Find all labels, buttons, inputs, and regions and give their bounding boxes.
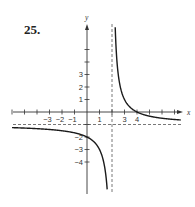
x-tick-label: −2 (56, 115, 65, 124)
y-tick-label: 2 (79, 83, 83, 92)
graph: xy−3−2−1134321−2−3−4 (0, 0, 195, 207)
y-axis-arrow (85, 24, 89, 30)
x-tick-label: 1 (97, 115, 101, 124)
x-tick-label: 3 (122, 115, 126, 124)
x-tick-label: 4 (135, 115, 139, 124)
y-tick-label: −3 (74, 145, 83, 154)
y-axis-label: y (84, 13, 89, 22)
x-tick-label: −1 (68, 115, 77, 124)
left-branch (12, 128, 107, 190)
x-axis-label: x (186, 108, 191, 117)
y-tick-label: −4 (74, 158, 83, 167)
y-tick-label: 1 (79, 95, 83, 104)
x-axis-arrow (177, 110, 183, 114)
y-tick-label: 3 (79, 70, 83, 79)
right-branch (115, 27, 181, 120)
x-tick-label: −3 (43, 115, 52, 124)
